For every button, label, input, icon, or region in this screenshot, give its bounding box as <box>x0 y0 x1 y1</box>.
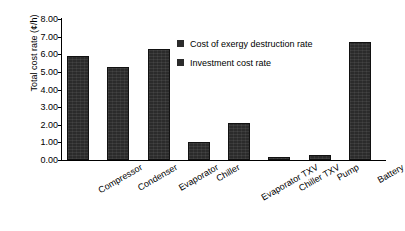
x-axis-tick-label-text: Compressor <box>97 162 144 195</box>
x-axis-line <box>61 160 386 161</box>
x-axis-tick-label-text: Evaporator <box>177 162 220 193</box>
legend-item: Cost of exergy destruction rate <box>177 38 377 49</box>
bar <box>107 67 129 160</box>
chart-legend: Cost of exergy destruction rate Investme… <box>177 38 377 76</box>
bar <box>268 157 290 160</box>
x-axis-tick-labels: CompressorCondenserEvaporatorChillerEvap… <box>62 162 384 231</box>
x-axis-tick-label-text: Condenser <box>136 162 179 193</box>
legend-item: Investment cost rate <box>177 57 377 68</box>
x-axis-tick-label: Evaporator <box>177 162 220 193</box>
x-axis-tick-label: Chiller <box>214 162 241 183</box>
legend-swatch-icon <box>177 59 184 66</box>
x-axis-tick-label-text: Chiller <box>214 162 241 183</box>
x-axis-tick-label: Compressor <box>97 162 144 195</box>
bar <box>67 56 89 160</box>
bar <box>188 142 210 160</box>
legend-swatch-icon <box>177 40 184 47</box>
legend-label: Cost of exergy destruction rate <box>190 39 313 49</box>
bar <box>228 123 250 160</box>
bar <box>309 155 331 160</box>
legend-label: Investment cost rate <box>190 58 271 68</box>
bar <box>148 49 170 160</box>
x-axis-tick-label: Condenser <box>136 162 179 193</box>
